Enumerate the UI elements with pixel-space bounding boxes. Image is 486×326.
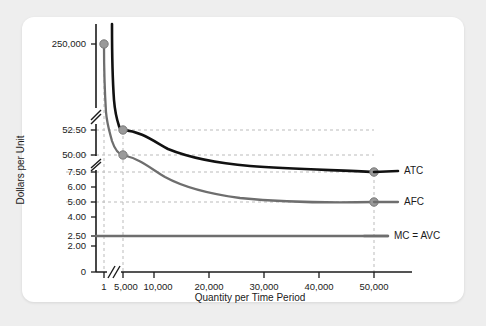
y-axis-break-lower-icon: [91, 156, 101, 171]
x-tick-marks: [104, 272, 374, 278]
atc-curve: [112, 24, 374, 172]
x-axis-break-icon: [107, 266, 121, 278]
y-tick-label-7-50: 7.50: [18, 167, 86, 177]
x-axis-title: Quantity per Time Period: [195, 292, 306, 303]
x-tick-label-20000: 20,000: [194, 282, 223, 292]
y-tick-label-0: 0: [18, 267, 86, 277]
legend-connectors: [364, 171, 398, 236]
x-tick-label-30000: 30,000: [249, 282, 278, 292]
gridlines-vertical: [104, 44, 374, 272]
x-tick-label-1: 1: [101, 282, 106, 292]
x-tick-label-40000: 40,000: [304, 282, 333, 292]
y-axis-break-icon: [91, 108, 101, 124]
y-tick-label-6-00: 6.00: [18, 182, 86, 192]
chart-screenshot: 250,000 52.50 50.00 7.50 6.00 5.00 4.00 …: [0, 0, 486, 326]
x-tick-label-10000: 10,000: [143, 282, 172, 292]
y-tick-label-4-00: 4.00: [18, 212, 86, 222]
curve-label-afc: AFC: [404, 197, 424, 207]
y-tick-label-50-00: 50.00: [18, 150, 86, 160]
curve-label-atc: ATC: [404, 166, 423, 176]
y-tick-label-250000: 250,000: [18, 39, 86, 49]
x-tick-label-50000: 50,000: [359, 282, 388, 292]
y-tick-label-52-50: 52.50: [18, 125, 86, 135]
y-axis-title: Dollars per Unit: [15, 136, 26, 205]
x-tick-label-5000: 5,000: [114, 282, 138, 292]
y-tick-label-2-00: 2.00: [18, 241, 86, 251]
afc-curve: [104, 44, 374, 202]
data-point-markers: [100, 40, 378, 206]
y-tick-label-5-00: 5.00: [18, 197, 86, 207]
curve-label-mc-avc: MC = AVC: [394, 231, 440, 241]
